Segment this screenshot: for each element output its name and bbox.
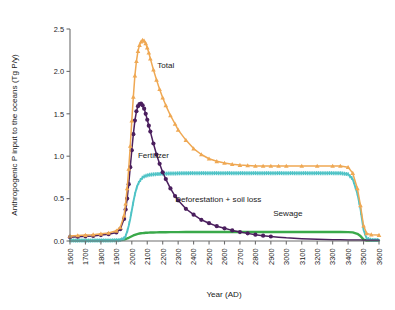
tick-label-layer: 0.00.51.01.52.02.51600170018001900200021… (54, 25, 384, 265)
x-tick-label: 1600 (66, 249, 75, 265)
x-tick-label: 2200 (159, 249, 168, 265)
x-tick-label: 3100 (298, 249, 307, 265)
x-tick-label: 2000 (128, 249, 137, 265)
figure-container: 0.00.51.01.52.02.51600170018001900200021… (0, 0, 395, 310)
series-layer (68, 38, 382, 243)
x-axis-title: Year (AD) (206, 290, 242, 299)
x-tick-label: 3500 (359, 249, 368, 265)
x-tick-label: 3300 (328, 249, 337, 265)
x-tick-label: 3400 (344, 249, 353, 265)
axes-layer (67, 29, 380, 245)
series-total (68, 38, 382, 238)
annotation-fertilizer: Fertilizer (138, 151, 169, 160)
x-tick-label: 2300 (174, 249, 183, 265)
x-tick-label: 2400 (189, 249, 198, 265)
x-tick-label: 2700 (236, 249, 245, 265)
x-tick-label: 3200 (313, 249, 322, 265)
annotation-sewage: Sewage (273, 209, 303, 218)
y-axis-title: Anthropogenic P input to the oceans (Tg … (10, 54, 19, 216)
x-tick-label: 3600 (375, 249, 384, 265)
y-tick-label: 2.0 (54, 67, 64, 76)
y-tick-label: 2.5 (54, 25, 64, 34)
annotation-total: Total (157, 61, 174, 70)
x-tick-label: 2600 (220, 249, 229, 265)
y-tick-label: 1.0 (54, 152, 64, 161)
x-tick-label: 1800 (97, 249, 106, 265)
chart-svg: 0.00.51.01.52.02.51600170018001900200021… (0, 0, 395, 310)
series-annotation-layer: SewageFertilizerDeforestation + soil los… (138, 61, 303, 218)
x-tick-label: 2500 (205, 249, 214, 265)
x-tick-label: 2100 (143, 249, 152, 265)
x-tick-label: 1900 (112, 249, 121, 265)
y-tick-label: 1.5 (54, 110, 64, 119)
x-tick-label: 2800 (251, 249, 260, 265)
annotation-deforestation-soil-loss: Deforestation + soil loss (175, 195, 261, 204)
y-tick-label: 0.5 (54, 194, 64, 203)
y-tick-label: 0.0 (54, 237, 64, 246)
series-deforestation-soil-loss (68, 102, 379, 241)
x-tick-label: 1700 (81, 249, 90, 265)
x-tick-label: 3000 (282, 249, 291, 265)
x-tick-label: 2900 (267, 249, 276, 265)
